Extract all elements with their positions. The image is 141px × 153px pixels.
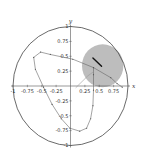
y-tick-label: -0.25 [56, 98, 69, 104]
x-tick-label: -0.25 [50, 88, 63, 94]
data-point [122, 87, 123, 88]
data-point [92, 105, 93, 106]
data-point [33, 57, 34, 58]
y-tick-label: 0.75 [57, 38, 68, 44]
x-axis-label: x [132, 82, 136, 89]
data-point [90, 118, 91, 119]
x-tick-label: 0.5 [95, 88, 103, 94]
x-tick-label: -1 [11, 88, 16, 94]
plot-area: -1-0.75-0.5-0.250.250.50.7510.750.50.25-… [0, 0, 141, 153]
x-tick-label: 0.25 [79, 88, 90, 94]
y-tick-label: -0.5 [59, 113, 69, 119]
data-point [72, 59, 73, 60]
data-point [93, 67, 94, 68]
data-point [79, 131, 80, 132]
y-axis-label: y [68, 17, 73, 25]
data-point [35, 69, 36, 70]
y-tick-label: 1 [65, 23, 68, 29]
data-point [110, 77, 111, 78]
data-point [40, 51, 41, 52]
x-tick-label: -0.75 [21, 88, 34, 94]
data-point [116, 83, 117, 84]
data-point [86, 128, 87, 129]
y-tick-label: -1 [64, 142, 69, 148]
data-point [50, 54, 51, 55]
x-tick-label: -0.5 [37, 88, 47, 94]
data-point [69, 128, 70, 129]
y-tick-label: 0.25 [57, 68, 68, 74]
data-point [93, 90, 94, 91]
data-point [93, 74, 94, 75]
data-point [52, 104, 53, 105]
y-tick-label: -0.75 [56, 127, 69, 133]
y-tick-label: 0.5 [61, 53, 69, 59]
x-tick-label: 0.75 [108, 88, 119, 94]
